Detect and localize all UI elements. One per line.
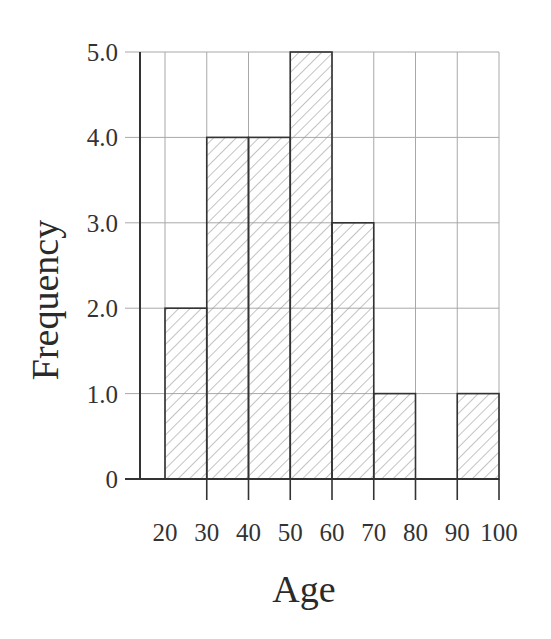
histogram-chart: 01.02.03.04.05.0 2030405060708090100 Fre… xyxy=(0,0,551,639)
histogram-bar xyxy=(374,394,416,479)
x-tick-label: 50 xyxy=(278,519,303,546)
histogram-bar xyxy=(207,137,249,479)
y-tick-label: 2.0 xyxy=(87,295,118,322)
bars xyxy=(165,52,499,479)
x-tick-label: 100 xyxy=(480,519,518,546)
y-axis-title: Frequency xyxy=(24,220,66,380)
y-tick-label: 1.0 xyxy=(87,381,118,408)
x-tick-label: 80 xyxy=(403,519,428,546)
y-tick-labels: 01.02.03.04.05.0 xyxy=(87,39,118,493)
y-tick-label: 3.0 xyxy=(87,210,118,237)
y-tick-label: 0 xyxy=(106,466,119,493)
x-tick-labels: 2030405060708090100 xyxy=(153,519,518,546)
x-tick-label: 60 xyxy=(320,519,345,546)
y-tick-label: 4.0 xyxy=(87,124,118,151)
y-tick-label: 5.0 xyxy=(87,39,118,66)
x-tick-label: 30 xyxy=(194,519,219,546)
histogram-bar xyxy=(249,137,291,479)
histogram-bar xyxy=(332,223,374,479)
x-tick-label: 20 xyxy=(153,519,178,546)
histogram-bar xyxy=(165,308,207,479)
histogram-bar xyxy=(290,52,332,479)
x-tick-label: 70 xyxy=(361,519,386,546)
x-tick-label: 90 xyxy=(445,519,470,546)
histogram-bar xyxy=(457,394,499,479)
x-tick-label: 40 xyxy=(236,519,261,546)
x-axis-title: Age xyxy=(272,568,335,610)
